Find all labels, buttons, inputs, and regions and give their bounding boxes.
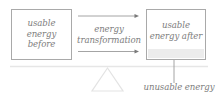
arrow-top-head-icon: [135, 14, 140, 18]
label-line: usable: [12, 18, 71, 29]
usable-energy-after-box: usable energy after: [146, 9, 206, 60]
label-line: before: [12, 39, 71, 50]
usable-energy-before-label: usable energy before: [12, 18, 71, 50]
usable-energy-after-label: usable energy after: [147, 20, 205, 41]
arrow-bottom-head-icon: [135, 50, 140, 54]
usable-energy-before-box: usable energy before: [11, 9, 72, 60]
label-line: usable: [147, 20, 205, 31]
energy-transformation-label: energy transformation: [72, 24, 146, 45]
unusable-energy-label: unusable energy: [140, 82, 218, 93]
label-line: energy after: [147, 31, 205, 42]
fulcrum-triangle-icon: [92, 68, 123, 91]
unusable-energy-strip: [148, 49, 204, 58]
label-line: transformation: [72, 35, 146, 46]
label-line: energy: [12, 29, 71, 40]
energy-balance-diagram: usable energy before energy transformati…: [0, 0, 218, 100]
label-line: energy: [72, 24, 146, 35]
